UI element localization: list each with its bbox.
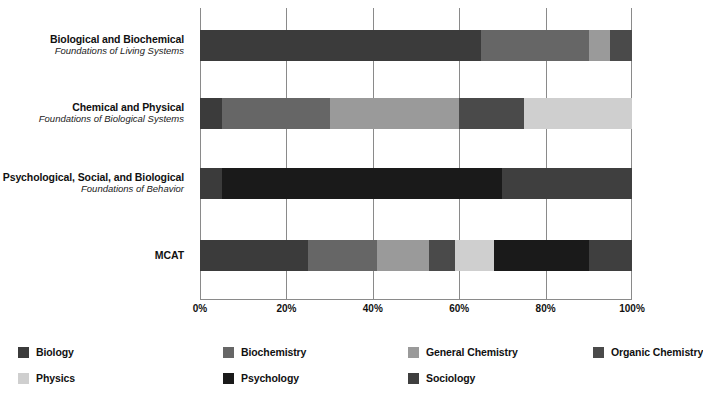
legend-swatch-icon: [18, 347, 29, 358]
x-tick-label: 40%: [363, 303, 383, 314]
legend-label: Biochemistry: [241, 346, 306, 358]
bar-segment: [589, 30, 611, 61]
bar-segment: [330, 98, 460, 129]
legend-label: Physics: [36, 372, 75, 384]
legend-item[interactable]: Organic Chemistry: [593, 346, 703, 358]
legend-swatch-icon: [223, 347, 234, 358]
x-tick-label: 80%: [536, 303, 556, 314]
bar-segment: [429, 240, 455, 271]
legend-item[interactable]: Biology: [18, 346, 74, 358]
bar-segment: [494, 240, 589, 271]
category-label: MCAT: [0, 249, 184, 261]
category-axis-labels: Biological and BiochemicalFoundations of…: [0, 8, 192, 300]
legend-label: Sociology: [426, 372, 475, 384]
legend-label: Psychology: [241, 372, 299, 384]
bar-row: [200, 240, 632, 271]
plot-area: [200, 8, 632, 300]
bar-segment: [524, 98, 632, 129]
bar-segment: [200, 240, 308, 271]
bar-segment: [589, 240, 632, 271]
bar-row: [200, 168, 632, 199]
bar-row: [200, 30, 632, 61]
legend-item[interactable]: Psychology: [223, 372, 299, 384]
bar-stack: [200, 240, 632, 271]
category-label-subtitle: Foundations of Biological Systems: [0, 113, 184, 124]
bar-segment: [200, 168, 222, 199]
legend-label: Biology: [36, 346, 74, 358]
legend-label: Organic Chemistry: [611, 346, 703, 358]
bar-segment: [222, 168, 503, 199]
bar-stack: [200, 30, 632, 61]
bar-row: [200, 98, 632, 129]
category-label-subtitle: Foundations of Behavior: [0, 183, 184, 194]
category-label-title: Chemical and Physical: [0, 101, 184, 113]
legend-item[interactable]: Biochemistry: [223, 346, 306, 358]
bar-segment: [200, 30, 481, 61]
bar-series-container: [200, 8, 632, 300]
bar-segment: [481, 30, 589, 61]
legend-swatch-icon: [223, 373, 234, 384]
chart-legend: BiologyBiochemistryGeneral ChemistryOrga…: [18, 346, 636, 392]
bar-segment: [222, 98, 330, 129]
x-tick-label: 20%: [276, 303, 296, 314]
x-tick-label: 0%: [193, 303, 207, 314]
legend-item[interactable]: Physics: [18, 372, 75, 384]
bar-segment: [377, 240, 429, 271]
bar-segment: [459, 98, 524, 129]
category-label: Biological and BiochemicalFoundations of…: [0, 33, 184, 57]
category-label: Chemical and PhysicalFoundations of Biol…: [0, 101, 184, 125]
bar-segment: [502, 168, 632, 199]
legend-item[interactable]: Sociology: [408, 372, 475, 384]
bar-segment: [455, 240, 494, 271]
category-label-title: MCAT: [0, 249, 184, 261]
category-label-title: Biological and Biochemical: [0, 33, 184, 45]
bar-segment: [200, 98, 222, 129]
bar-segment: [308, 240, 377, 271]
bar-stack: [200, 98, 632, 129]
legend-swatch-icon: [408, 347, 419, 358]
bar-stack: [200, 168, 632, 199]
x-axis-tick-labels: 0%20%40%60%80%100%: [200, 303, 632, 321]
x-tick-label: 60%: [449, 303, 469, 314]
legend-item[interactable]: General Chemistry: [408, 346, 518, 358]
legend-label: General Chemistry: [426, 346, 518, 358]
bar-segment: [610, 30, 632, 61]
legend-swatch-icon: [18, 373, 29, 384]
category-label-subtitle: Foundations of Living Systems: [0, 45, 184, 56]
legend-swatch-icon: [408, 373, 419, 384]
x-tick-label: 100%: [619, 303, 645, 314]
category-label-title: Psychological, Social, and Biological: [0, 171, 184, 183]
legend-swatch-icon: [593, 347, 604, 358]
category-label: Psychological, Social, and BiologicalFou…: [0, 171, 184, 195]
